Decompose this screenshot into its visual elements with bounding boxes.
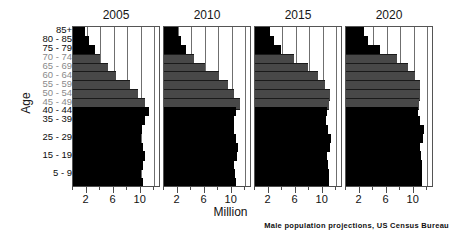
x-tick-minor: [72, 186, 73, 190]
x-tick-minor: [99, 186, 100, 190]
age-tick-label: 35 - 39: [42, 114, 72, 123]
chart-panel-2020: 2020: [345, 26, 433, 186]
x-tick-major: [359, 186, 360, 193]
age-tick-label: 25 - 29: [42, 132, 72, 141]
x-tick-minor: [163, 186, 164, 190]
x-tick-label: 10: [316, 193, 328, 205]
x-tick-major: [177, 186, 178, 193]
x-tick-minor: [244, 186, 245, 190]
x-tick-minor: [308, 186, 309, 190]
x-tick-label: 6: [292, 193, 298, 205]
x-tick-major: [204, 186, 205, 193]
x-tick-major: [322, 186, 323, 193]
gridline: [427, 27, 428, 186]
x-tick-major: [113, 186, 114, 193]
x-tick-major: [386, 186, 387, 193]
x-tick-minor: [217, 186, 218, 190]
plot-area: [254, 26, 342, 186]
x-tick-label: 10: [134, 193, 146, 205]
age-tick-label: 5 - 9: [53, 168, 72, 177]
x-tick-major: [231, 186, 232, 193]
x-tick-major: [413, 186, 414, 193]
x-tick-label: 6: [110, 193, 116, 205]
x-tick-minor: [126, 186, 127, 190]
plot-area: [72, 26, 160, 186]
bar: [255, 178, 329, 186]
plot-area: [345, 26, 433, 186]
chart-root: Age 85+80 - 8575 - 7970 - 7465 - 6960 - …: [0, 0, 461, 233]
x-tick-minor: [335, 186, 336, 190]
chart-panel-2010: 2010: [163, 26, 251, 186]
age-tick-labels: 85+80 - 8575 - 7970 - 7465 - 6960 - 6455…: [28, 26, 72, 186]
x-tick-minor: [399, 186, 400, 190]
x-axis-2010: 2610: [163, 186, 251, 200]
age-tick-label: 15 - 19: [42, 150, 72, 159]
chart-panel-2015: 2015: [254, 26, 342, 186]
panel-title: 2010: [163, 8, 251, 22]
x-axis-2015: 2610: [254, 186, 342, 200]
x-tick-minor: [153, 186, 154, 190]
gridline: [154, 27, 155, 186]
x-axis-2005: 2610: [72, 186, 160, 200]
x-tick-minor: [345, 186, 346, 190]
gridline: [336, 27, 337, 186]
x-tick-label: 2: [82, 193, 88, 205]
x-tick-label: 2: [173, 193, 179, 205]
x-tick-label: 2: [355, 193, 361, 205]
bar: [73, 178, 143, 186]
x-tick-label: 6: [383, 193, 389, 205]
x-tick-major: [268, 186, 269, 193]
source-credit: Male population projections, US Census B…: [264, 221, 449, 230]
plot-area: [163, 26, 251, 186]
x-tick-major: [295, 186, 296, 193]
bar: [346, 178, 422, 186]
x-axis-title: Million: [0, 205, 461, 219]
x-tick-label: 6: [201, 193, 207, 205]
panel-title: 2005: [72, 8, 160, 22]
x-tick-label: 2: [264, 193, 270, 205]
gridline: [245, 27, 246, 186]
x-tick-minor: [281, 186, 282, 190]
x-tick-label: 10: [225, 193, 237, 205]
x-tick-major: [86, 186, 87, 193]
panel-title: 2015: [254, 8, 342, 22]
x-axis-2020: 2610: [345, 186, 433, 200]
chart-panel-2005: 2005: [72, 26, 160, 186]
x-tick-minor: [372, 186, 373, 190]
x-tick-minor: [254, 186, 255, 190]
x-tick-label: 10: [407, 193, 419, 205]
panel-title: 2020: [345, 8, 433, 22]
x-tick-minor: [426, 186, 427, 190]
bar: [164, 178, 236, 186]
x-tick-major: [140, 186, 141, 193]
x-tick-minor: [190, 186, 191, 190]
